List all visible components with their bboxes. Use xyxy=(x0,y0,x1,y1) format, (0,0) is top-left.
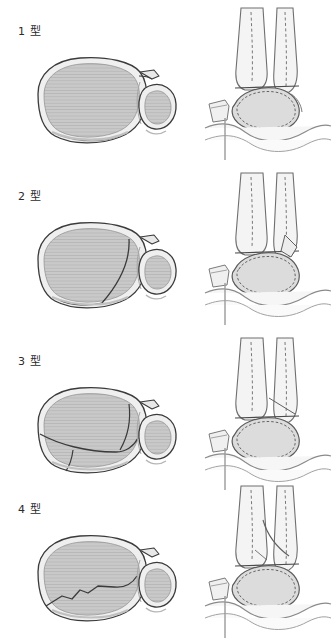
axial-cross-section-type-1 xyxy=(28,42,180,157)
type-label-4: 4 型 xyxy=(18,500,43,516)
fracture-classification-figure: 1 型 xyxy=(0,0,334,640)
lateral-ankle-view-type-1 xyxy=(205,8,331,160)
classification-row: 2 型 xyxy=(0,165,334,325)
axial-cross-section-type-4 xyxy=(28,520,180,635)
lateral-ankle-view-type-3 xyxy=(205,338,331,490)
classification-row: 3 型 xyxy=(0,330,334,490)
axial-cross-section-type-2 xyxy=(28,207,180,322)
lateral-ankle-view-type-2 xyxy=(205,173,331,325)
axial-cross-section-type-3 xyxy=(28,372,180,487)
lateral-ankle-view-type-4 xyxy=(205,486,331,638)
classification-row: 4 型 xyxy=(0,478,334,638)
type-label-3: 3 型 xyxy=(18,352,43,368)
classification-row: 1 型 xyxy=(0,0,334,160)
type-label-1: 1 型 xyxy=(18,22,43,38)
type-label-2: 2 型 xyxy=(18,187,43,203)
